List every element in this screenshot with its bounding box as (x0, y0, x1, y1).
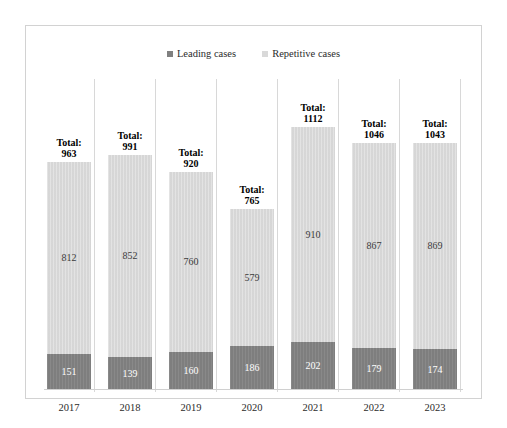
bar-total-label-2023: Total: 1043 (422, 118, 447, 140)
legend-item-leading-cases: Leading cases (167, 48, 236, 59)
x-tick-2023: 2023 (410, 402, 460, 413)
bar-total-label-2018: Total: 991 (117, 130, 142, 152)
chart-legend: Leading cases Repetitive cases (26, 48, 481, 59)
x-tick-2021: 2021 (288, 402, 338, 413)
plot-area: Total: 963 812 151 Total: 991 (36, 71, 471, 398)
bar-group-2021: Total: 1112 910 202 (288, 71, 338, 390)
bar-segment-repetitive-2023[interactable]: 869 (413, 143, 457, 349)
bar-segment-leading-2023[interactable]: 174 (413, 349, 457, 390)
stacked-bar-2020[interactable]: 579 186 (230, 209, 274, 390)
x-tick-2018: 2018 (105, 402, 155, 413)
stacked-bar-2019[interactable]: 760 160 (169, 172, 213, 390)
bar-segment-repetitive-2020[interactable]: 579 (230, 209, 274, 346)
bar-total-label-2022: Total: 1046 (361, 118, 386, 140)
bar-segment-repetitive-2019[interactable]: 760 (169, 172, 213, 352)
bar-total-label-2020: Total: 765 (239, 184, 264, 206)
bar-group-2023: Total: 1043 869 174 (410, 71, 460, 390)
bar-value-leading-2023: 174 (428, 365, 443, 375)
bar-total-label-2017: Total: 963 (56, 137, 81, 159)
bar-value-repetitive-2019: 760 (184, 257, 199, 267)
gridline (94, 79, 95, 392)
bar-group-2018: Total: 991 852 139 (105, 71, 155, 390)
stacked-bar-2023[interactable]: 869 174 (413, 143, 457, 390)
x-tick-2020: 2020 (227, 402, 277, 413)
total-word-2021: Total: (300, 102, 325, 113)
total-word-2018: Total: (117, 130, 142, 141)
bar-group-2020: Total: 765 579 186 (227, 71, 277, 390)
total-word-2019: Total: (178, 147, 203, 158)
gridline (277, 79, 278, 392)
bar-segment-leading-2022[interactable]: 179 (352, 348, 396, 390)
bar-segment-leading-2018[interactable]: 139 (108, 357, 152, 390)
legend-label-repetitive-cases: Repetitive cases (272, 48, 340, 59)
bar-segment-leading-2019[interactable]: 160 (169, 352, 213, 390)
stacked-bar-2018[interactable]: 852 139 (108, 155, 152, 390)
legend-swatch-leading-cases (167, 51, 173, 57)
bar-value-leading-2021: 202 (306, 361, 321, 371)
bar-value-leading-2017: 151 (62, 367, 77, 377)
bar-total-label-2019: Total: 920 (178, 147, 203, 169)
bar-value-leading-2022: 179 (367, 364, 382, 374)
bar-segment-leading-2017[interactable]: 151 (47, 354, 91, 390)
bar-value-leading-2018: 139 (123, 369, 138, 379)
x-tick-2019: 2019 (166, 402, 216, 413)
total-value-2019: 920 (178, 158, 203, 169)
total-word-2020: Total: (239, 184, 264, 195)
total-value-2020: 765 (239, 195, 264, 206)
gridline (216, 79, 217, 392)
total-value-2017: 963 (56, 148, 81, 159)
total-value-2018: 991 (117, 141, 142, 152)
bar-total-label-2021: Total: 1112 (300, 102, 325, 124)
legend-swatch-repetitive-cases (262, 51, 268, 57)
total-value-2023: 1043 (422, 129, 447, 140)
bar-value-repetitive-2020: 579 (245, 273, 260, 283)
bar-value-repetitive-2021: 910 (306, 230, 321, 240)
x-axis-labels: 2017 2018 2019 2020 2021 2022 2023 (36, 390, 471, 418)
bar-value-repetitive-2018: 852 (123, 251, 138, 261)
stacked-bar-2017[interactable]: 812 151 (47, 162, 91, 390)
gridline (460, 79, 461, 392)
bar-value-repetitive-2023: 869 (428, 241, 443, 251)
x-tick-2017: 2017 (44, 402, 94, 413)
total-value-2022: 1046 (361, 129, 386, 140)
bar-group-2017: Total: 963 812 151 (44, 71, 94, 390)
gridline (338, 79, 339, 392)
total-word-2023: Total: (422, 118, 447, 129)
bar-segment-leading-2020[interactable]: 186 (230, 346, 274, 390)
gridline (399, 79, 400, 392)
plot-container: Total: 963 812 151 Total: 991 (26, 71, 481, 398)
total-word-2022: Total: (361, 118, 386, 129)
bar-group-2019: Total: 920 760 160 (166, 71, 216, 390)
bar-value-leading-2020: 186 (245, 363, 260, 373)
bar-group-2022: Total: 1046 867 179 (349, 71, 399, 390)
stacked-bar-2022[interactable]: 867 179 (352, 143, 396, 390)
bar-value-repetitive-2022: 867 (367, 241, 382, 251)
chart-frame: Leading cases Repetitive cases Total: 96… (25, 25, 482, 399)
bar-value-leading-2019: 160 (184, 366, 199, 376)
bar-value-repetitive-2017: 812 (62, 253, 77, 263)
total-value-2021: 1112 (300, 113, 325, 124)
bar-segment-repetitive-2022[interactable]: 867 (352, 143, 396, 348)
total-word-2017: Total: (56, 137, 81, 148)
bar-segment-repetitive-2017[interactable]: 812 (47, 162, 91, 354)
bar-segment-repetitive-2021[interactable]: 910 (291, 127, 335, 342)
bar-segment-repetitive-2018[interactable]: 852 (108, 155, 152, 357)
stacked-bar-2021[interactable]: 910 202 (291, 127, 335, 390)
legend-label-leading-cases: Leading cases (177, 48, 236, 59)
legend-item-repetitive-cases: Repetitive cases (262, 48, 340, 59)
gridline (155, 79, 156, 392)
bar-segment-leading-2021[interactable]: 202 (291, 342, 335, 390)
x-tick-2022: 2022 (349, 402, 399, 413)
